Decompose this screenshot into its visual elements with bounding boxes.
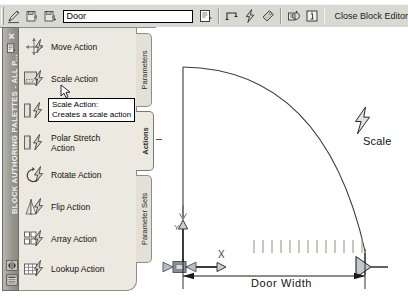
palette-action-rotate[interactable]: Rotate Action: [23, 162, 135, 188]
rotate-action-icon: [23, 164, 47, 186]
toolbar-drag-grip[interactable]: [1, 7, 5, 25]
tab-parameters[interactable]: Parameters: [136, 33, 152, 107]
scale-action-icon: [23, 68, 47, 90]
tooltip-body: Creates a scale action: [52, 110, 131, 120]
tab-parameter-sets[interactable]: Parameter Sets: [136, 175, 152, 263]
action-icon[interactable]: [242, 7, 258, 25]
palette-bottom-fold: [19, 277, 137, 291]
toolbar-separator-2: [280, 8, 282, 24]
save-block-definition-icon[interactable]: [24, 7, 40, 25]
tab-actions[interactable]: Actions: [136, 111, 154, 171]
tab-label: Parameters: [139, 51, 148, 90]
block-name-input[interactable]: [63, 10, 194, 23]
stretch-action-icon: [23, 100, 47, 122]
tooltip-title: Scale Action:: [52, 100, 131, 110]
leaf-direction-arrow: [180, 205, 187, 220]
scale-action-label: Scale: [363, 135, 392, 147]
drawing-canvas[interactable]: Scale Door Width X Y: [156, 27, 408, 299]
block-editor-window: Close Block Editor × BLOCK AUTHORING PAL…: [0, 0, 408, 299]
block-editor-toolbar: Close Block Editor: [0, 4, 408, 28]
dimension-label: Door Width: [251, 277, 312, 289]
palette-action-label: Array Action: [51, 234, 97, 244]
array-action-icon: [23, 228, 47, 250]
palette-action-array[interactable]: Array Action: [23, 226, 135, 252]
palette-action-scale[interactable]: Scale Action: [23, 66, 135, 92]
polar-stretch-action-icon: [23, 132, 47, 154]
move-action-icon: [23, 36, 47, 58]
mouse-cursor-icon: [60, 84, 72, 100]
palette-action-label: Flip Action: [51, 202, 90, 212]
base-point-grip: [163, 262, 196, 273]
palette-action-label: Lookup Action: [51, 264, 104, 274]
close-icon[interactable]: ×: [5, 30, 18, 42]
x-axis-label: X: [218, 249, 225, 260]
auto-hide-icon[interactable]: [6, 260, 18, 271]
update-parameter-visibility-icon[interactable]: [286, 7, 302, 25]
learn-about-dynamic-blocks-icon[interactable]: [304, 7, 320, 25]
properties-icon[interactable]: [6, 43, 17, 54]
palette-action-polar-stretch[interactable]: Polar Stretch Action: [23, 130, 135, 156]
parameter-icon[interactable]: [224, 7, 240, 25]
palette-action-label: Polar Stretch Action: [51, 133, 125, 153]
edit-block-definition-icon[interactable]: [6, 7, 22, 25]
ucs-x-arrowhead: [217, 262, 226, 271]
tab-label: Parameter Sets: [139, 193, 148, 245]
attribute-definition-icon[interactable]: [260, 7, 276, 25]
palette-action-label: Rotate Action: [51, 170, 102, 180]
ucs-y-arrowhead: [178, 220, 187, 229]
tab-label: Actions: [140, 127, 149, 155]
palette-title-bar[interactable]: × BLOCK AUTHORING PALETTES - ALL P...: [2, 27, 19, 291]
flip-action-icon: [23, 196, 47, 218]
y-axis-label: Y: [174, 223, 179, 232]
block-authoring-palettes-icon[interactable]: [198, 7, 214, 25]
toolbar-separator-3: [324, 8, 326, 24]
palette-action-label: Scale Action: [51, 74, 98, 84]
threshold-hatch-ticks: [254, 240, 362, 253]
palette-action-label: Move Action: [51, 42, 97, 52]
tooltip: Scale Action: Creates a scale action: [48, 98, 135, 122]
actions-palette-body: Move Action Scale Action: [19, 27, 137, 278]
door-swing-arc: [183, 67, 365, 251]
door-block-geometry: [156, 27, 408, 299]
toolbar-separator: [218, 8, 220, 24]
block-authoring-palettes: × BLOCK AUTHORING PALETTES - ALL P...: [2, 27, 154, 291]
scale-action-marker: [356, 107, 370, 134]
dim-arrow-left: [183, 273, 194, 279]
palette-action-move[interactable]: Move Action: [23, 34, 135, 60]
save-block-as-icon[interactable]: [42, 7, 58, 25]
palette-menu-icon[interactable]: [6, 274, 18, 286]
close-block-editor-button[interactable]: Close Block Editor: [334, 11, 408, 21]
palette-action-flip[interactable]: Flip Action: [23, 194, 135, 220]
